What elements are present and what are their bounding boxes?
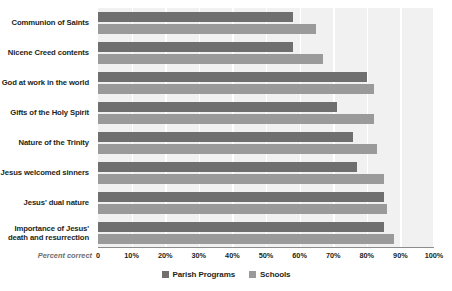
- bar-schools: [98, 114, 374, 125]
- x-axis-tick-label: 100%: [425, 251, 444, 260]
- bar-group: [98, 8, 434, 38]
- bar-group: [98, 38, 434, 68]
- legend-item: Parish Programs: [162, 270, 236, 279]
- bar-schools: [98, 174, 384, 185]
- bar-schools: [98, 234, 394, 245]
- x-axis-tick-label: 10%: [124, 251, 139, 260]
- legend-item: Schools: [249, 270, 290, 279]
- x-axis-tick-label: 30%: [191, 251, 206, 260]
- bar-group: [98, 188, 434, 218]
- bar-parish-programs: [98, 42, 293, 53]
- bar-chart: Communion of SaintsNicene Creed contents…: [0, 0, 452, 291]
- category-label: Nature of the Trinity: [0, 138, 89, 147]
- bar-parish-programs: [98, 12, 293, 23]
- bar-group: [98, 158, 434, 188]
- x-axis-tick-label: 50%: [259, 251, 274, 260]
- x-axis-tick-label: 60%: [292, 251, 307, 260]
- x-axis-tick-label: 80%: [359, 251, 374, 260]
- plot-area: [98, 8, 434, 248]
- bar-group: [98, 68, 434, 98]
- legend-label: Parish Programs: [173, 270, 236, 279]
- x-axis-tick-label: 70%: [326, 251, 341, 260]
- category-label: Nicene Creed contents: [0, 48, 89, 57]
- bar-parish-programs: [98, 192, 384, 203]
- legend-swatch-icon: [249, 271, 256, 278]
- legend-label: Schools: [260, 270, 290, 279]
- x-axis-title: Percent correct: [12, 251, 92, 260]
- bar-parish-programs: [98, 222, 384, 233]
- category-label: Jesus' dual nature: [0, 198, 89, 207]
- x-axis-tick-labels: 010%20%30%40%50%60%70%80%90%100%: [98, 251, 434, 263]
- chart-legend: Parish ProgramsSchools: [0, 270, 452, 279]
- bar-schools: [98, 144, 377, 155]
- x-axis-tick-label: 20%: [158, 251, 173, 260]
- bar-group: [98, 98, 434, 128]
- bar-parish-programs: [98, 162, 357, 173]
- category-label: Importance of Jesus' death and resurrect…: [0, 224, 89, 243]
- bar-parish-programs: [98, 102, 337, 113]
- bar-parish-programs: [98, 132, 353, 143]
- x-axis-tick-label: 0: [96, 251, 100, 260]
- bar-schools: [98, 24, 316, 35]
- legend-swatch-icon: [162, 271, 169, 278]
- category-label: God at work in the world: [0, 78, 89, 87]
- bar-group: [98, 218, 434, 248]
- bar-parish-programs: [98, 72, 367, 83]
- category-label-column: Communion of SaintsNicene Creed contents…: [0, 8, 93, 248]
- bar-group: [98, 128, 434, 158]
- category-label: Jesus welcomed sinners: [0, 168, 89, 177]
- x-axis-line: [98, 247, 434, 248]
- category-label: Gifts of the Holy Spirit: [0, 108, 89, 117]
- x-axis-tick-label: 40%: [225, 251, 240, 260]
- bar-schools: [98, 204, 387, 215]
- bar-schools: [98, 54, 323, 65]
- gridline: [434, 8, 435, 248]
- x-axis-tick-label: 90%: [393, 251, 408, 260]
- category-label: Communion of Saints: [0, 18, 89, 27]
- bar-schools: [98, 84, 374, 95]
